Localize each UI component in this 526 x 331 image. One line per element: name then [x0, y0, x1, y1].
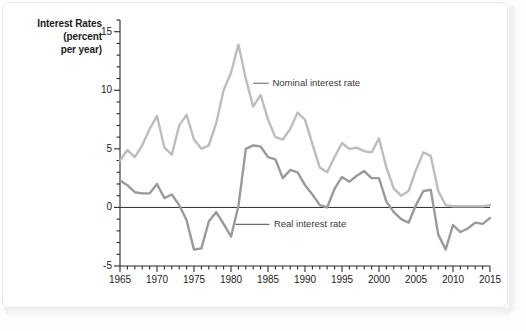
y-axis-tick-label: 5	[78, 144, 112, 154]
x-axis-tick-label: 2005	[396, 275, 436, 285]
x-axis-tick-label: 1990	[285, 275, 325, 285]
series-line-real	[120, 145, 490, 249]
y-axis-tick-label: 15	[78, 27, 112, 37]
x-axis-tick-label: 1970	[137, 275, 177, 285]
x-axis-tick-label: 2000	[359, 275, 399, 285]
x-axis-tick-label: 1975	[174, 275, 214, 285]
y-axis-tick-label: -5	[78, 261, 112, 271]
figure-container: Interest Rates (percent per year) -50510…	[0, 0, 526, 331]
chart-svg	[106, 16, 496, 292]
x-axis-tick-label: 1985	[248, 275, 288, 285]
x-axis-tick-label: 2010	[433, 275, 473, 285]
nominal-series-annotation: Nominal interest rate	[272, 78, 360, 88]
x-axis-tick-label: 1965	[100, 275, 140, 285]
real-series-annotation: Real interest rate	[274, 219, 346, 229]
series-line-nominal	[120, 45, 490, 207]
panel-shadow-right	[509, 6, 517, 312]
x-axis-tick-label: 2015	[470, 275, 510, 285]
plot-area	[106, 16, 496, 292]
y-axis-title-line-3: per year)	[6, 43, 102, 56]
panel-shadow-bottom	[4, 308, 512, 316]
y-axis-tick-label: 10	[78, 85, 112, 95]
y-axis-tick-label: 0	[78, 202, 112, 212]
x-axis-tick-label: 1980	[211, 275, 251, 285]
x-axis-tick-label: 1995	[322, 275, 362, 285]
